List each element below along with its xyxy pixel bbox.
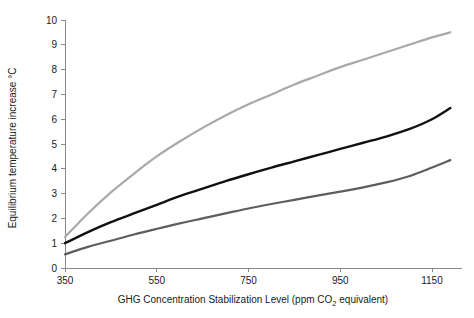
x-tick-label: 550 [148, 275, 165, 286]
x-tick-label: 750 [240, 275, 257, 286]
x-axis-title: GHG Concentration Stabilization Level (p… [118, 294, 388, 308]
x-tick-label: 1150 [421, 275, 443, 286]
equilibrium-temperature-chart: 012345678910 3505507509501150 Equilibriu… [0, 0, 474, 318]
y-tick-label: 2 [51, 213, 57, 224]
y-tick-label: 4 [51, 163, 57, 174]
x-axis-title-suffix: equivalent) [337, 294, 389, 305]
plot-axes [65, 20, 462, 268]
y-tick-label: 5 [51, 139, 57, 150]
chart-series-group [65, 32, 450, 254]
x-tick-label: 950 [332, 275, 349, 286]
chart-container: 012345678910 3505507509501150 Equilibriu… [0, 0, 474, 318]
y-tick-label: 9 [51, 39, 57, 50]
y-tick-label: 7 [51, 89, 57, 100]
series-line-lower-bound [65, 160, 450, 254]
y-tick-label: 8 [51, 64, 57, 75]
y-tick-label: 3 [51, 188, 57, 199]
series-line-best-estimate [65, 108, 450, 243]
y-axis-ticks: 012345678910 [46, 15, 65, 274]
x-axis-ticks: 3505507509501150 [57, 268, 444, 286]
y-tick-label: 1 [51, 238, 57, 249]
x-axis-title-prefix: GHG Concentration Stabilization Level (p… [118, 294, 333, 305]
y-tick-label: 10 [46, 15, 58, 26]
y-axis-title: Equilibrium temperature increase °C [7, 68, 18, 229]
x-tick-label: 350 [57, 275, 74, 286]
y-tick-label: 0 [51, 263, 57, 274]
y-tick-label: 6 [51, 114, 57, 125]
